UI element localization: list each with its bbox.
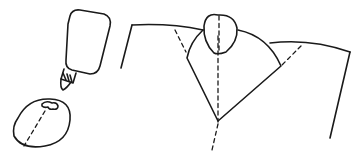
folded-paper-collar-icon [121,25,350,150]
craft-diagram [0,0,362,155]
glue-bottle-icon [61,10,111,90]
head-ball-icon [204,14,237,53]
paper-circle-icon [14,99,71,147]
illustration-canvas [0,0,362,155]
